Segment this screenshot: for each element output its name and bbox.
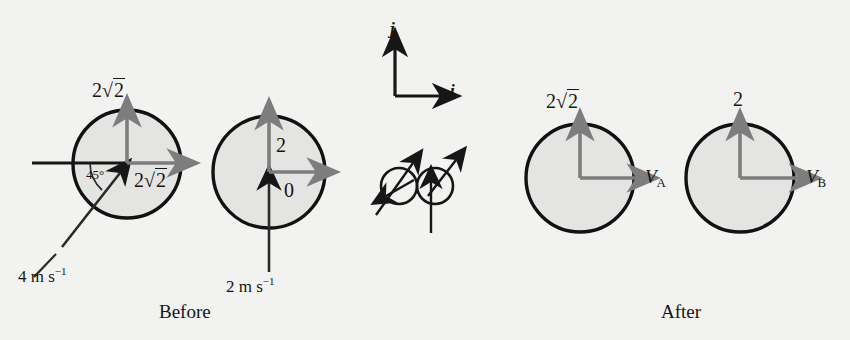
before-ball-b-incoming-speed-label: 2 m s−1	[226, 278, 275, 295]
figure-canvas	[0, 0, 850, 340]
after-ball-b-velocity-label: VB	[806, 167, 826, 186]
after-ball-a-velocity-label: VA	[645, 167, 666, 186]
before-ball-b-vertical-component-label: 2	[276, 135, 286, 155]
caption-before: Before	[159, 302, 211, 321]
before-ball-a-incoming-speed-label: 4 m s−1	[18, 268, 67, 285]
before-ball-a-angle-label: 45°	[86, 168, 104, 181]
after-ball-b-vertical-component-label: 2	[733, 89, 743, 109]
caption-after: After	[661, 302, 701, 321]
physics-collision-figure: 2√2 2√2 45° 4 m s−1 2 0 2 m s−1 j i 2√2 …	[0, 0, 850, 340]
after-ball-a-vertical-component-label: 2√2	[546, 89, 579, 111]
before-ball-b-horizontal-component-label: 0	[284, 180, 294, 200]
before-ball-a-vertical-component-label: 2√2	[92, 78, 125, 100]
axis-i-label: i	[450, 82, 455, 99]
before-ball-a-horizontal-component-label: 2√2	[134, 168, 167, 190]
axis-j-label: j	[390, 20, 395, 37]
